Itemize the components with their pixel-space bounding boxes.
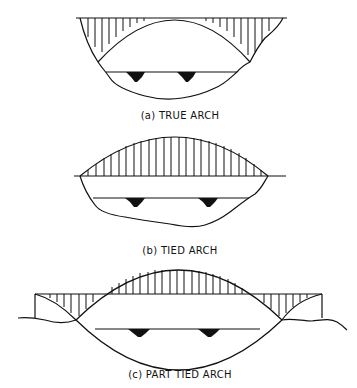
- panel-part-tied-arch: (c) PART TIED ARCH: [18, 270, 347, 380]
- valley-profile: [80, 18, 283, 99]
- pier-right: [198, 198, 218, 207]
- side-span-right-curve: [282, 294, 322, 320]
- caption-b: (b) TIED ARCH: [142, 245, 217, 256]
- caption-c: (c) PART TIED ARCH: [128, 369, 232, 380]
- ground-left: [18, 318, 76, 323]
- pier-right: [198, 329, 220, 337]
- panel-tied-arch: (b) TIED ARCH: [74, 137, 286, 256]
- arch-types-figure: (a) TRUE ARCH: [0, 0, 357, 388]
- arch-underside: [76, 320, 282, 370]
- arch-rib: [76, 270, 282, 320]
- pier-left: [125, 198, 145, 207]
- pier-left: [126, 72, 145, 82]
- spandrel-columns: [88, 18, 269, 55]
- ground-right: [282, 319, 347, 330]
- caption-a: (a) TRUE ARCH: [141, 110, 220, 121]
- pier-right: [177, 72, 196, 82]
- pier-left: [128, 329, 150, 337]
- arch-rib: [80, 137, 268, 176]
- panel-true-arch: (a) TRUE ARCH: [76, 18, 287, 121]
- hangers: [88, 137, 261, 176]
- valley-profile: [80, 176, 268, 227]
- side-span-left-curve: [35, 294, 76, 320]
